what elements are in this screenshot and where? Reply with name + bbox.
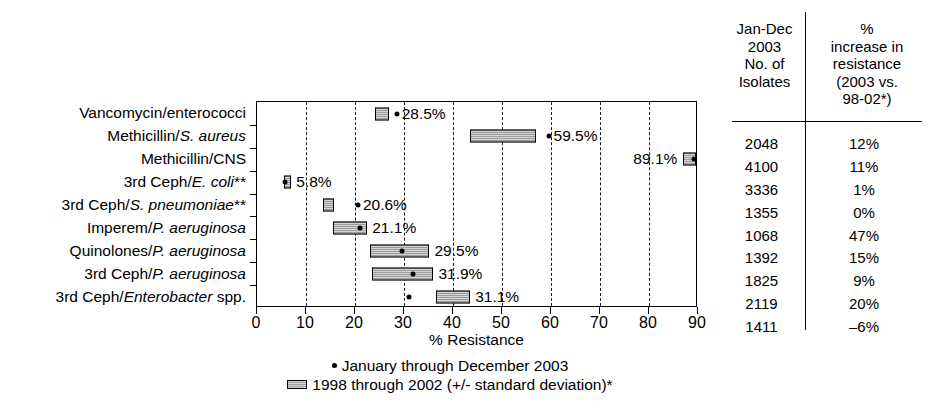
category-label: 3rd Ceph/Enterobacter spp. <box>0 285 252 308</box>
table-row: 139215% <box>724 246 929 269</box>
table-cell-isolates: 1392 <box>724 246 799 269</box>
x-axis-tick <box>599 307 600 314</box>
data-label: 89.1% <box>633 152 677 168</box>
table-row: 211920% <box>724 292 929 315</box>
table-cell-isolates: 1355 <box>724 201 799 224</box>
category-label: Quinolones/P. aeruginosa <box>0 239 252 262</box>
data-label: 5.8% <box>296 174 331 190</box>
chart-legend: January through December 2003 1998 throu… <box>200 356 700 394</box>
table-cell-increase: –6% <box>805 315 923 338</box>
table-cell-increase: 12% <box>805 132 923 155</box>
table-cell-increase: 1% <box>805 178 923 201</box>
data-label: 31.9% <box>438 266 482 282</box>
table-cell-increase: 11% <box>805 155 923 178</box>
category-label: 3rd Ceph/E. coli** <box>0 170 252 193</box>
y-axis-tick <box>250 171 257 172</box>
x-axis-tick <box>550 307 551 314</box>
isolates-table: Jan-Dec2003No. ofIsolates %increase inre… <box>724 8 929 338</box>
table-cell-isolates: 4100 <box>724 155 799 178</box>
table-cell-isolates: 2119 <box>724 292 799 315</box>
x-axis-tick-label: 10 <box>296 314 314 332</box>
table-cell-isolates: 1825 <box>724 269 799 292</box>
y-axis-tick <box>250 148 257 149</box>
data-label: 20.6% <box>363 197 407 213</box>
table-cell-increase: 20% <box>805 292 923 315</box>
chart-plot-area: 28.5%59.5%89.1%5.8%20.6%21.1%29.5%31.9%3… <box>256 101 697 307</box>
x-axis-tick <box>697 307 698 314</box>
table-cell-isolates: 1068 <box>724 224 799 247</box>
table-row: 18259% <box>724 269 929 292</box>
x-axis-tick <box>256 307 257 314</box>
category-label: 3rd Ceph/P. aeruginosa <box>0 262 252 285</box>
data-label: 28.5% <box>402 106 446 122</box>
x-axis-tick <box>305 307 306 314</box>
chart-row: 29.5% <box>257 239 696 262</box>
legend-item-2003: January through December 2003 <box>200 356 700 375</box>
table-header-increase: %increase inresistance(2003 vs.98-02*) <box>805 20 929 108</box>
data-label: 29.5% <box>434 243 478 259</box>
bar-marker-icon <box>287 380 307 389</box>
table-header-isolates: Jan-Dec2003No. ofIsolates <box>724 20 805 90</box>
category-label: Methicillin/CNS <box>0 147 252 170</box>
category-label: Vancomycin/enterococci <box>0 101 252 124</box>
table-header-rule <box>732 121 922 122</box>
x-axis-tick-label: 90 <box>688 314 706 332</box>
y-axis-tick <box>250 194 257 195</box>
table-cell-increase: 0% <box>805 201 923 224</box>
range-bar <box>372 267 433 280</box>
dot-marker-icon <box>332 363 337 368</box>
table-cell-isolates: 3336 <box>724 178 799 201</box>
y-axis-tick <box>250 239 257 240</box>
data-label: 59.5% <box>554 129 598 145</box>
legend-item-1998-2002: 1998 through 2002 (+/- standard deviatio… <box>200 375 700 394</box>
legend-label-2003: January through December 2003 <box>342 357 569 375</box>
range-bar <box>436 290 470 303</box>
table-cell-increase: 9% <box>805 269 923 292</box>
data-point-marker <box>546 134 551 139</box>
data-point-marker <box>691 157 696 162</box>
table-cell-isolates: 2048 <box>724 132 799 155</box>
table-row: 1411–6% <box>724 315 929 338</box>
chart-row: 20.6% <box>257 194 696 217</box>
table-row: 204812% <box>724 132 929 155</box>
data-point-marker <box>399 248 404 253</box>
x-axis-tick <box>403 307 404 314</box>
category-axis-labels: Vancomycin/enterococciMethicillin/S. aur… <box>0 101 252 308</box>
y-axis-tick <box>250 285 257 286</box>
range-bar <box>470 130 536 143</box>
chart-row: 21.1% <box>257 216 696 239</box>
table-row: 13550% <box>724 201 929 224</box>
chart-row: 89.1% <box>257 148 696 171</box>
x-axis-tick-label: 40 <box>443 314 461 332</box>
table-cell-increase: 15% <box>805 246 923 269</box>
data-label: 31.1% <box>475 289 519 305</box>
data-point-marker <box>358 225 363 230</box>
x-axis-tick <box>452 307 453 314</box>
x-axis-tick-label: 0 <box>252 314 261 332</box>
data-point-marker <box>411 271 416 276</box>
data-point-marker <box>394 111 399 116</box>
table-cell-increase: 47% <box>805 224 923 247</box>
chart-row: 31.9% <box>257 262 696 285</box>
data-point-marker <box>283 180 288 185</box>
legend-label-1998-2002: 1998 through 2002 (+/- standard deviatio… <box>312 376 612 394</box>
x-axis-tick-label: 50 <box>492 314 510 332</box>
x-axis-tick-label: 30 <box>394 314 412 332</box>
data-point-marker <box>355 203 360 208</box>
x-axis-title: % Resistance <box>256 331 697 349</box>
x-axis-tick-label: 20 <box>345 314 363 332</box>
range-bar <box>323 199 334 212</box>
y-axis-tick <box>250 125 257 126</box>
chart-row: 28.5% <box>257 102 696 125</box>
x-axis-tick-label: 70 <box>590 314 608 332</box>
x-axis-tick <box>501 307 502 314</box>
category-label: Methicillin/S. aureus <box>0 124 252 147</box>
range-bar <box>375 107 390 120</box>
y-axis-tick <box>250 216 257 217</box>
x-axis-tick-label: 60 <box>541 314 559 332</box>
table-row: 33361% <box>724 178 929 201</box>
x-axis-tick <box>648 307 649 314</box>
y-axis-tick <box>250 262 257 263</box>
chart-row: 5.8% <box>257 171 696 194</box>
table-cell-isolates: 1411 <box>724 315 799 338</box>
